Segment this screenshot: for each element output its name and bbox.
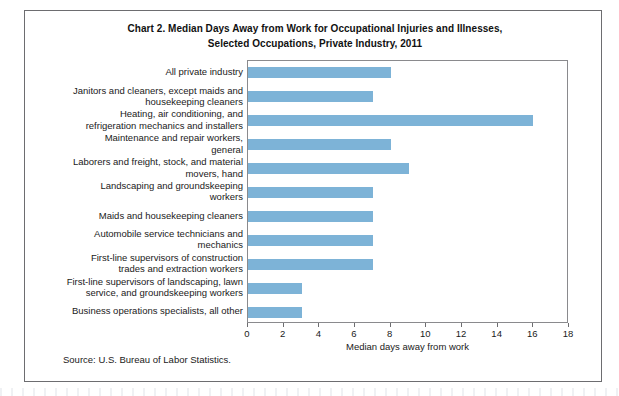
bar <box>248 211 373 222</box>
category-label: First-line supervisors of construction t… <box>35 252 243 275</box>
category-label: First-line supervisors of landscaping, l… <box>35 276 243 299</box>
category-label: Automobile service technicians and mecha… <box>35 228 243 251</box>
bar <box>248 139 391 150</box>
x-tick-mark <box>390 323 391 327</box>
x-tick-label: 0 <box>244 328 249 339</box>
chart-frame: Chart 2. Median Days Away from Work for … <box>24 10 602 382</box>
x-tick-label: 8 <box>387 328 392 339</box>
bar-row <box>248 228 373 252</box>
page-bottom-artifact <box>0 388 619 396</box>
bar-row <box>248 300 302 324</box>
x-tick-label: 6 <box>351 328 356 339</box>
x-axis-title: Median days away from work <box>247 341 568 352</box>
category-label: Maintenance and repair workers, general <box>35 132 243 155</box>
x-tick-label: 18 <box>563 328 574 339</box>
bar <box>248 163 409 174</box>
plot-area <box>247 60 568 323</box>
bar-row <box>248 181 373 205</box>
bar <box>248 235 373 246</box>
x-tick-mark <box>247 323 248 327</box>
x-tick-label: 12 <box>456 328 467 339</box>
x-tick-label: 14 <box>491 328 502 339</box>
x-tick-label: 4 <box>316 328 321 339</box>
category-label: Landscaping and groundskeeping workers <box>35 180 243 203</box>
bar <box>248 91 373 102</box>
category-axis-labels: All private industry Janitors and cleane… <box>35 60 243 323</box>
bar-row <box>248 85 373 109</box>
bar <box>248 259 373 270</box>
bar-row <box>248 204 373 228</box>
bar <box>248 307 302 318</box>
x-tick-mark <box>318 323 319 327</box>
x-tick-mark <box>461 323 462 327</box>
category-label: Business operations specialists, all oth… <box>35 305 243 316</box>
x-tick-mark <box>532 323 533 327</box>
bar-row <box>248 133 391 157</box>
category-label: Janitors and cleaners, except maids and … <box>35 85 243 108</box>
category-label: All private industry <box>35 66 243 77</box>
category-label: Heating, air conditioning, and refrigera… <box>35 108 243 131</box>
source-note: Source: U.S. Bureau of Labor Statistics. <box>63 354 231 365</box>
bar-row <box>248 61 391 85</box>
bar <box>248 187 373 198</box>
x-tick-mark <box>568 323 569 327</box>
bar <box>248 283 302 294</box>
x-tick-label: 16 <box>527 328 538 339</box>
category-label: Laborers and freight, stock, and materia… <box>35 156 243 179</box>
category-label: Maids and housekeeping cleaners <box>35 210 243 221</box>
bar-row <box>248 252 373 276</box>
x-tick-mark <box>354 323 355 327</box>
x-tick-mark <box>425 323 426 327</box>
bar <box>248 115 533 126</box>
x-tick-mark <box>497 323 498 327</box>
bars-layer <box>248 61 567 322</box>
bar-row <box>248 109 533 133</box>
plot-wrapper: All private industry Janitors and cleane… <box>25 11 603 383</box>
bar <box>248 67 391 78</box>
x-tick-label: 2 <box>280 328 285 339</box>
x-tick-mark <box>283 323 284 327</box>
x-tick-label: 10 <box>420 328 431 339</box>
bar-row <box>248 276 302 300</box>
bar-row <box>248 157 409 181</box>
